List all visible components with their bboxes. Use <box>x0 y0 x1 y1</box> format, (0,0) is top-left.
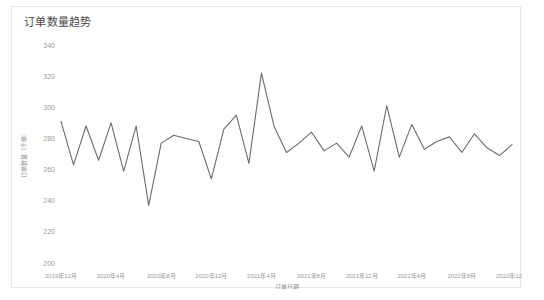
x-tick-label: 2020年8月 <box>147 272 176 280</box>
y-tick-label: 320 <box>43 73 55 80</box>
y-tick-label: 260 <box>43 166 55 173</box>
chart-plot-area: 340320300280260240220200 2019年12月2020年4月… <box>12 7 522 289</box>
y-tick-label: 280 <box>43 135 55 142</box>
x-tick-label: 2022年12月 <box>496 272 522 280</box>
series-line-order-quantity <box>61 73 512 205</box>
y-tick-label: 340 <box>43 42 55 49</box>
y-tick-label: 200 <box>43 260 55 267</box>
x-tick-label: 2020年4月 <box>97 272 126 280</box>
y-tick-label: 300 <box>43 104 55 111</box>
x-tick-label: 2021年8月 <box>297 272 326 280</box>
x-axis-ticks: 2019年12月2020年4月2020年8月2020年12月2021年4月202… <box>45 272 522 280</box>
y-tick-label: 240 <box>43 197 55 204</box>
x-tick-label: 2019年12月 <box>45 272 77 280</box>
x-tick-label: 2020年12月 <box>195 272 227 280</box>
y-axis-ticks: 340320300280260240220200 <box>43 42 55 267</box>
chart-card: 订单数量趋势 340320300280260240220200 2019年12月… <box>11 6 521 288</box>
x-tick-label: 2022年4月 <box>397 272 426 280</box>
x-tick-label: 2021年12月 <box>346 272 378 280</box>
y-tick-label: 220 <box>43 228 55 235</box>
x-tick-label: 2021年4月 <box>247 272 276 280</box>
x-tick-label: 2022年8月 <box>448 272 477 280</box>
x-axis-title: 订单日期 <box>275 283 299 289</box>
y-axis-title: 订单数量（千单） <box>20 130 28 178</box>
line-chart-svg: 340320300280260240220200 2019年12月2020年4月… <box>12 7 522 289</box>
